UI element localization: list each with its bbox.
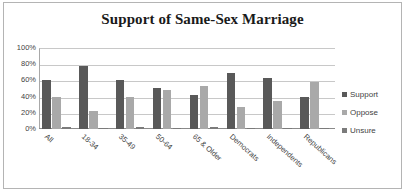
bar-support: [263, 78, 272, 129]
y-axis-tick-label: 80%: [6, 60, 36, 68]
y-axis-tick-label: 60%: [6, 76, 36, 84]
bar-group: [42, 48, 71, 129]
bar-support: [42, 80, 51, 129]
x-axis-tick-label: 18-34: [80, 132, 100, 152]
bar-oppose: [200, 86, 209, 129]
x-axis-tick-label: 50-64: [154, 132, 174, 152]
chart-legend: SupportOpposeUnsure: [342, 86, 407, 140]
bar-oppose: [52, 97, 61, 129]
bar-group: [116, 48, 145, 129]
bar-group: [300, 48, 329, 129]
legend-label: Oppose: [350, 108, 378, 117]
x-axis-tick-label: Republicans: [302, 132, 339, 166]
bar-oppose: [163, 90, 172, 129]
legend-item-support[interactable]: Support: [342, 86, 407, 103]
bar-oppose: [273, 101, 282, 129]
bar-support: [79, 66, 88, 129]
legend-swatch-icon: [342, 110, 347, 115]
bar-oppose: [89, 111, 98, 129]
bar-oppose: [310, 82, 319, 129]
x-axis-tick-label: All: [43, 132, 55, 144]
x-axis-tick-label: Independents: [265, 132, 305, 169]
y-axis: 0%20%40%60%80%100%: [4, 48, 36, 129]
x-axis-tick-label: 35-49: [117, 132, 137, 152]
bar-group: [190, 48, 219, 129]
bar-support: [116, 80, 125, 129]
bar-oppose: [237, 107, 246, 129]
y-axis-tick-label: 100%: [6, 44, 36, 52]
y-axis-tick-label: 20%: [6, 109, 36, 117]
bars-layer: [40, 48, 335, 129]
x-axis: All18-3435-4950-6465 & OlderDemocratsInd…: [40, 129, 335, 194]
legend-item-unsure[interactable]: Unsure: [342, 122, 407, 139]
x-axis-tick-label: 65 & Older: [191, 132, 224, 163]
bar-group: [153, 48, 182, 129]
bar-support: [227, 73, 236, 129]
bar-group: [263, 48, 292, 129]
y-axis-tick-label: 40%: [6, 93, 36, 101]
legend-swatch-icon: [342, 92, 347, 97]
chart-container: Support of Same-Sex Marriage 0%20%40%60%…: [3, 2, 402, 189]
legend-label: Unsure: [350, 126, 376, 135]
bar-support: [300, 97, 309, 129]
legend-swatch-icon: [342, 128, 347, 133]
bar-group: [227, 48, 256, 129]
bar-group: [79, 48, 108, 129]
bar-support: [190, 95, 199, 129]
bar-support: [153, 88, 162, 129]
y-axis-tick-label: 0%: [6, 125, 36, 133]
legend-label: Support: [350, 90, 378, 99]
bar-oppose: [126, 97, 135, 129]
legend-item-oppose[interactable]: Oppose: [342, 104, 407, 121]
x-axis-tick-label: Democrats: [228, 132, 261, 163]
chart-title: Support of Same-Sex Marriage: [4, 11, 401, 28]
